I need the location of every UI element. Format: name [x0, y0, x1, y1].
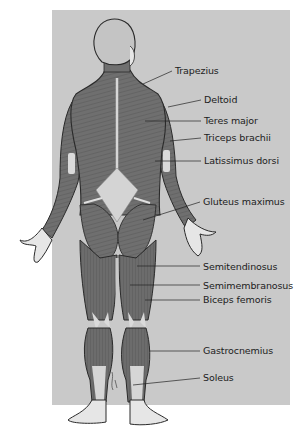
label-biceps-femoris: Biceps femoris [203, 295, 272, 305]
label-triceps-brachii: Triceps brachii [204, 133, 271, 143]
label-soleus: Soleus [203, 373, 234, 383]
label-gluteus-maximus: Gluteus maximus [203, 197, 285, 207]
right-foot [130, 400, 168, 425]
left-foot [68, 400, 106, 423]
right-hand [184, 218, 216, 256]
label-teres-major: Teres major [204, 116, 258, 126]
left-elbow-tendon [68, 153, 75, 174]
head [94, 19, 135, 65]
label-deltoid: Deltoid [204, 95, 237, 105]
right-achilles [130, 366, 144, 400]
label-semimembranosus: Semimembranosus [203, 281, 293, 291]
artist-signature [112, 372, 117, 390]
label-latissimus-dorsi: Latissimus dorsi [204, 156, 279, 166]
label-semitendinosus: Semitendinosus [203, 262, 277, 272]
human-muscle-figure [0, 0, 302, 444]
label-gastrocnemius: Gastrocnemius [203, 346, 273, 356]
label-trapezius: Trapezius [175, 66, 219, 76]
